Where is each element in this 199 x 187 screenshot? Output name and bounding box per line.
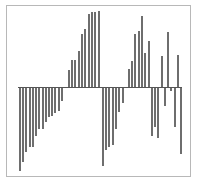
bar — [164, 88, 166, 106]
bar — [35, 88, 37, 136]
bar — [81, 34, 83, 87]
bar — [38, 88, 40, 129]
bar — [134, 34, 136, 87]
bar — [78, 51, 80, 87]
bar — [29, 88, 31, 147]
bar — [157, 88, 159, 138]
bar — [22, 88, 24, 162]
bar — [128, 69, 130, 87]
bar — [115, 88, 117, 129]
bar — [84, 29, 86, 87]
bar — [91, 12, 93, 87]
bar — [112, 88, 114, 145]
bar — [68, 70, 70, 87]
bar — [118, 88, 120, 112]
bar — [88, 14, 90, 87]
bar — [151, 88, 153, 136]
bar — [32, 88, 34, 147]
bar — [102, 88, 104, 166]
bar — [141, 16, 143, 87]
bar — [105, 88, 107, 150]
bar — [48, 88, 50, 117]
bar — [180, 88, 182, 154]
bar — [51, 88, 53, 116]
bar — [74, 60, 76, 87]
bar — [161, 56, 163, 87]
bar — [98, 11, 100, 87]
bar — [71, 60, 73, 87]
bar — [19, 88, 21, 171]
bar — [122, 88, 124, 103]
bar — [144, 53, 146, 87]
bar — [108, 88, 110, 147]
bar — [58, 88, 60, 111]
bar — [131, 61, 133, 87]
bar — [94, 12, 96, 87]
bar — [174, 88, 176, 127]
bar — [148, 41, 150, 87]
bar — [61, 88, 63, 101]
bar — [45, 88, 47, 122]
bar — [154, 88, 156, 127]
bar — [167, 32, 169, 87]
bar — [177, 55, 179, 87]
bar — [25, 88, 27, 152]
bar — [170, 88, 172, 91]
bar — [138, 31, 140, 87]
bar — [42, 88, 44, 129]
bar — [54, 88, 56, 113]
